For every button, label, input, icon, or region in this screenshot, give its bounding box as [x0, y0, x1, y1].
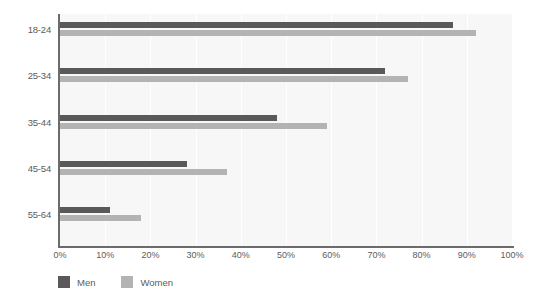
bar-women-25-34[interactable] [60, 76, 408, 82]
bar-group [60, 68, 512, 82]
bar-men-55-64[interactable] [60, 207, 110, 213]
y-tick-label-45-54: 45-54 [28, 163, 51, 174]
y-tick-label-25-34: 25-34 [28, 70, 51, 81]
y-tick-label-18-24: 18-24 [28, 23, 51, 34]
bar-men-45-54[interactable] [60, 161, 187, 167]
x-tick-label-40%: 40% [232, 250, 250, 260]
x-tick-label-10%: 10% [96, 250, 114, 260]
x-tick-label-100%: 100% [500, 250, 523, 260]
y-axis: 18-2425-3435-4445-5455-64 [0, 14, 56, 246]
x-tick-label-50%: 50% [277, 250, 295, 260]
women-swatch-icon [121, 276, 133, 288]
x-tick-label-70%: 70% [367, 250, 385, 260]
legend-item-men[interactable]: Men [58, 276, 95, 288]
x-tick-label-80%: 80% [413, 250, 431, 260]
legend-label-women: Women [140, 277, 173, 288]
men-swatch-icon [58, 276, 70, 288]
bar-men-25-34[interactable] [60, 68, 385, 74]
plot-area [60, 14, 512, 246]
x-axis: 0%10%20%30%40%50%60%70%80%90%100% [60, 250, 512, 266]
y-axis-line [58, 14, 60, 246]
legend-label-men: Men [77, 277, 95, 288]
x-tick-label-60%: 60% [322, 250, 340, 260]
bar-group [60, 207, 512, 221]
bar-group [60, 161, 512, 175]
bar-men-18-24[interactable] [60, 22, 453, 28]
x-axis-line [58, 246, 514, 248]
x-tick-label-90%: 90% [458, 250, 476, 260]
bar-men-35-44[interactable] [60, 115, 277, 121]
x-tick-label-20%: 20% [141, 250, 159, 260]
bar-women-18-24[interactable] [60, 30, 476, 36]
x-tick-label-30%: 30% [187, 250, 205, 260]
bar-group [60, 22, 512, 36]
x-tick-label-0%: 0% [53, 250, 66, 260]
chart-legend: Men Women [58, 276, 173, 288]
legend-item-women[interactable]: Women [121, 276, 173, 288]
y-tick-label-35-44: 35-44 [28, 116, 51, 127]
bar-group [60, 115, 512, 129]
horizontal-bar-chart: 18-2425-3435-4445-5455-64 0%10%20%30%40%… [0, 0, 543, 306]
bar-women-45-54[interactable] [60, 169, 227, 175]
y-tick-label-55-64: 55-64 [28, 209, 51, 220]
bar-women-35-44[interactable] [60, 123, 327, 129]
bar-women-55-64[interactable] [60, 215, 141, 221]
